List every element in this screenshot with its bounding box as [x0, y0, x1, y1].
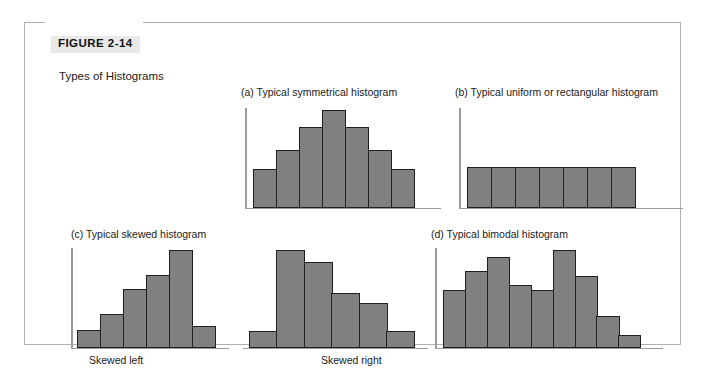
histogram-bar — [123, 289, 147, 348]
histogram-bar — [359, 303, 388, 347]
y-axis-line — [245, 108, 247, 209]
histogram-bar — [563, 167, 588, 207]
histogram-bar — [253, 169, 277, 207]
histogram-bar — [169, 250, 193, 348]
histogram-bar — [467, 167, 492, 207]
x-axis-line — [459, 208, 683, 210]
histogram-bar — [465, 271, 488, 348]
histogram-bar — [322, 110, 346, 208]
panel-skewed-histogram: (c) Typical skewed histogram Skewed left… — [71, 228, 431, 370]
plot-symmetrical — [245, 108, 441, 209]
panel-bimodal-histogram: (d) Typical bimodal histogram — [431, 228, 681, 370]
bar-group-symmetrical — [253, 107, 422, 208]
histogram-bar — [345, 127, 369, 208]
histogram-bar — [553, 250, 576, 348]
histogram-bar — [443, 290, 466, 348]
histogram-bar — [386, 331, 415, 347]
histogram-bar — [515, 167, 540, 207]
x-axis-line — [245, 208, 441, 210]
histogram-bar — [100, 314, 124, 347]
histogram-bar — [192, 326, 216, 347]
plot-bimodal — [435, 248, 663, 349]
histogram-bar — [299, 127, 323, 208]
histogram-bar — [331, 293, 360, 348]
x-axis-line — [243, 348, 428, 350]
histogram-bar — [575, 276, 598, 348]
panel-c-title: (c) Typical skewed histogram — [71, 228, 206, 240]
histogram-bar — [539, 167, 564, 207]
histogram-bar — [146, 275, 170, 348]
y-axis-line — [459, 108, 461, 209]
plot-skewed-right — [243, 248, 428, 349]
caption-skewed-left: Skewed left — [89, 354, 143, 366]
figure-subtitle: Types of Histograms — [59, 70, 164, 82]
histogram-bar — [509, 285, 532, 348]
histogram-bar — [618, 335, 641, 347]
histogram-bar — [276, 150, 300, 208]
x-axis-line — [435, 348, 663, 350]
figure-frame: FIGURE 2-14 Types of Histograms (a) Typi… — [24, 22, 681, 345]
panel-uniform-histogram: (b) Typical uniform or rectangular histo… — [455, 86, 693, 211]
histogram-bar — [611, 167, 636, 207]
histogram-bar — [596, 316, 619, 347]
bar-group-bimodal — [443, 247, 651, 348]
histogram-bar — [304, 262, 333, 348]
panel-a-title: (a) Typical symmetrical histogram — [241, 86, 397, 98]
y-axis-line — [71, 248, 73, 349]
histogram-bar — [276, 250, 305, 348]
panel-symmetrical-histogram: (a) Typical symmetrical histogram — [241, 86, 441, 211]
bar-group-skewed-right — [249, 247, 421, 348]
figure-label-notch — [45, 21, 143, 26]
histogram-bar — [491, 167, 516, 207]
panel-b-title: (b) Typical uniform or rectangular histo… — [455, 86, 658, 98]
caption-skewed-right: Skewed right — [321, 354, 382, 366]
plot-skewed-left — [71, 248, 229, 349]
histogram-bar — [531, 290, 554, 348]
x-axis-line — [71, 348, 229, 350]
y-axis-line — [435, 248, 437, 349]
panel-d-title: (d) Typical bimodal histogram — [431, 228, 568, 240]
bar-group-skewed-left — [77, 247, 222, 348]
histogram-bar — [368, 150, 392, 208]
figure-number-badge: FIGURE 2-14 — [51, 36, 140, 53]
plot-uniform — [459, 108, 683, 209]
histogram-bar — [391, 169, 415, 207]
bar-group-uniform — [467, 107, 643, 208]
histogram-bar — [487, 257, 510, 348]
histogram-bar — [249, 331, 278, 347]
histogram-bar — [77, 330, 101, 347]
histogram-bar — [587, 167, 612, 207]
